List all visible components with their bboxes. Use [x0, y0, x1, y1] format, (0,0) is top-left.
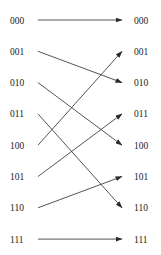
shuffle-diagram: 000001010011100101110111 000001010011100…	[0, 0, 161, 255]
left-node-label: 111	[10, 235, 24, 245]
edge-arrow-010-to-100	[38, 83, 122, 146]
edge-arrow-001-to-010	[38, 51, 122, 82]
left-node-label: 001	[10, 47, 25, 57]
right-node-label: 000	[134, 16, 149, 26]
edge-arrow-101-to-011	[38, 114, 122, 177]
left-node-label: 110	[10, 203, 24, 213]
left-node-label: 100	[10, 141, 25, 151]
right-node-label: 100	[134, 141, 149, 151]
left-node-label: 011	[10, 109, 24, 119]
edge-arrow-100-to-001	[38, 51, 122, 145]
right-node-label: 110	[134, 203, 148, 213]
left-node-label: 101	[10, 172, 25, 182]
edge-arrow-110-to-101	[38, 177, 122, 208]
left-node-label: 000	[10, 16, 25, 26]
left-node-label: 010	[10, 78, 25, 88]
right-node-label: 111	[134, 235, 148, 245]
right-node-label: 001	[134, 47, 149, 57]
right-node-label: 011	[134, 109, 148, 119]
right-node-label: 010	[134, 78, 149, 88]
right-node-label: 101	[134, 172, 149, 182]
edge-arrow-011-to-110	[38, 114, 122, 208]
